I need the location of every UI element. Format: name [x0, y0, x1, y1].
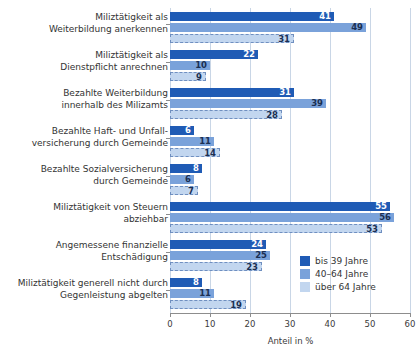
bar-value-label: 23: [246, 263, 258, 272]
bar-value-label: 11: [199, 289, 211, 298]
bar-ueber64-0: 31: [170, 34, 294, 43]
x-tick-label-30: 30: [285, 319, 296, 329]
category-label-line: Miliztätigkeit von Steuern: [0, 202, 168, 214]
bar-ueber64-2: 28: [170, 110, 282, 119]
bar-chart: 41 49 31 22 10 9 31: [0, 0, 420, 359]
x-axis-tick-10: [210, 313, 211, 317]
legend-item-ueber64: über 64 Jahre: [300, 282, 376, 292]
bar-4064-3: 11: [170, 137, 214, 146]
bar-4064-4: 6: [170, 175, 194, 184]
bar-ueber64-1: 9: [170, 72, 206, 81]
bar-value-label: 8: [193, 164, 199, 173]
bar-value-label: 31: [278, 35, 290, 44]
bar-ueber64-6: 23: [170, 262, 262, 271]
category-label-line: Dienstpflicht anrechnen: [0, 62, 168, 74]
bar-value-label: 8: [193, 278, 199, 287]
category-label-line: Miliztätigkeit als: [0, 50, 168, 62]
bar-value-label: 19: [230, 301, 242, 310]
bar-value-label: 41: [319, 12, 331, 21]
bar-4064-5: 56: [170, 213, 394, 222]
bar-value-label: 22: [243, 50, 255, 59]
x-tick-label-0: 0: [167, 319, 172, 329]
category-label-line: Angemessene finanzielle: [0, 240, 168, 252]
category-label-7: Miliztätigkeit generell nicht durch Gege…: [0, 278, 168, 301]
legend-swatch-icon: [300, 269, 310, 279]
gridline-60: [410, 8, 411, 313]
bar-value-label: 55: [375, 202, 387, 211]
legend-item-bis39: bis 39 Jahre: [300, 256, 376, 266]
bar-value-label: 24: [251, 240, 263, 249]
x-axis-tick-50: [370, 313, 371, 317]
bar-bis39-7: 8: [170, 278, 202, 287]
category-label-line: Bezahlte Weiterbildung: [0, 88, 168, 100]
x-tick-label-60: 60: [405, 319, 416, 329]
category-label-line: innerhalb des Milizamts: [0, 100, 168, 112]
bar-value-label: 39: [311, 99, 323, 108]
bar-value-label: 6: [185, 175, 191, 184]
bar-ueber64-7: 19: [170, 300, 246, 309]
category-label-line: durch Gemeinde: [0, 176, 168, 188]
category-label-line: Entschädigung: [0, 252, 168, 264]
bar-bis39-6: 24: [170, 240, 266, 249]
category-label-line: Weiterbildung anerkennen: [0, 24, 168, 36]
x-axis-tick-20: [250, 313, 251, 317]
x-axis-tick-30: [290, 313, 291, 317]
x-axis-tick-40: [330, 313, 331, 317]
bar-value-label: 7: [188, 187, 194, 196]
bar-ueber64-4: 7: [170, 186, 198, 195]
bar-4064-0: 49: [170, 23, 366, 32]
category-label-line: Miliztätigkeit generell nicht durch: [0, 278, 168, 290]
bar-ueber64-5: 53: [170, 224, 382, 233]
bar-value-label: 6: [185, 126, 191, 135]
bar-value-label: 53: [366, 225, 378, 234]
bar-bis39-0: 41: [170, 12, 334, 21]
bar-4064-6: 25: [170, 251, 270, 260]
legend-swatch-icon: [300, 282, 310, 292]
category-label-line: Gegenleistung abgelten: [0, 290, 168, 302]
category-label-4: Bezahlte Sozialversicherung durch Gemein…: [0, 164, 168, 187]
category-label-line: Bezahlte Haft- und Unfall-: [0, 126, 168, 138]
legend-label: 40–64 Jahre: [315, 269, 368, 279]
bar-ueber64-3: 14: [170, 148, 220, 157]
x-tick-label-20: 20: [245, 319, 256, 329]
category-label-5: Miliztätigkeit von Steuern abziehbar: [0, 202, 168, 225]
x-axis-tick-0: [170, 313, 171, 317]
bar-4064-7: 11: [170, 289, 214, 298]
category-label-line: Miliztätigkeit als: [0, 12, 168, 24]
bar-bis39-3: 6: [170, 126, 194, 135]
category-label-3: Bezahlte Haft- und Unfall- versicherung …: [0, 126, 168, 149]
bar-value-label: 49: [351, 23, 363, 32]
legend-swatch-icon: [300, 256, 310, 266]
category-label-line: Bezahlte Sozialversicherung: [0, 164, 168, 176]
bar-value-label: 10: [195, 61, 207, 70]
x-axis-title: Anteil in %: [170, 336, 411, 346]
legend-label: bis 39 Jahre: [315, 256, 368, 266]
category-label-2: Bezahlte Weiterbildung innerhalb des Mil…: [0, 88, 168, 111]
category-label-1: Miliztätigkeit als Dienstpflicht anrechn…: [0, 50, 168, 73]
bar-bis39-2: 31: [170, 88, 294, 97]
legend-item-4064: 40–64 Jahre: [300, 269, 376, 279]
legend-label: über 64 Jahre: [315, 282, 376, 292]
x-tick-label-40: 40: [325, 319, 336, 329]
bar-value-label: 9: [196, 73, 202, 82]
bar-bis39-1: 22: [170, 50, 258, 59]
bar-bis39-5: 55: [170, 202, 390, 211]
category-label-0: Miliztätigkeit als Weiterbildung anerken…: [0, 12, 168, 35]
bar-value-label: 28: [266, 111, 278, 120]
category-label-6: Angemessene finanzielle Entschädigung: [0, 240, 168, 263]
x-tick-label-50: 50: [365, 319, 376, 329]
x-tick-label-10: 10: [205, 319, 216, 329]
bar-value-label: 14: [204, 149, 216, 158]
bar-bis39-4: 8: [170, 164, 202, 173]
bar-4064-1: 10: [170, 61, 210, 70]
gridline-30: [290, 8, 291, 313]
bar-value-label: 25: [255, 251, 267, 260]
bar-value-label: 56: [379, 213, 391, 222]
category-label-line: versicherung durch Gemeinde: [0, 138, 168, 150]
bar-4064-2: 39: [170, 99, 326, 108]
category-label-line: abziehbar: [0, 214, 168, 226]
bar-value-label: 31: [279, 88, 291, 97]
x-axis-tick-60: [410, 313, 411, 317]
bar-value-label: 11: [199, 137, 211, 146]
chart-legend: bis 39 Jahre 40–64 Jahre über 64 Jahre: [300, 256, 376, 295]
